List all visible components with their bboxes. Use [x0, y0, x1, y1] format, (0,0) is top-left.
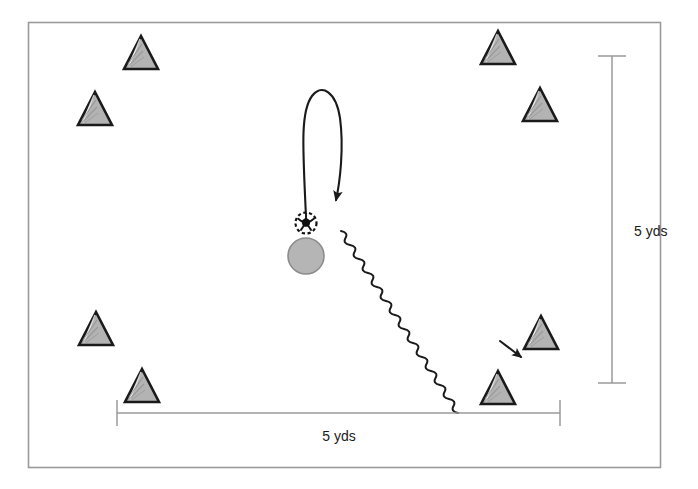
diagram-frame-border	[29, 23, 661, 468]
dimension-horizontal-label: 5 yds	[322, 428, 355, 444]
diagram-canvas: 5 yds 5 yds	[0, 0, 698, 489]
player-circle	[288, 238, 324, 274]
ball-marker	[296, 213, 317, 234]
soccer-drill-diagram: 5 yds 5 yds	[0, 0, 698, 489]
dimension-vertical-label: 5 yds	[634, 223, 667, 239]
player-marker	[288, 238, 324, 274]
